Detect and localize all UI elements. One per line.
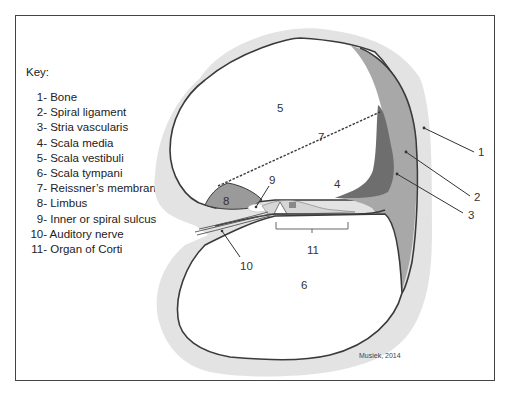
label-9: 9: [269, 174, 275, 186]
label-5: 5: [277, 102, 283, 114]
credit-text: Musiek, 2014: [359, 352, 401, 359]
cochlea-cross-section: 1 2 3 4 5 6 7 8 9 10 11 Musiek, 2014: [0, 0, 507, 395]
label-2: 2: [474, 191, 480, 203]
pointer-9-dot: [255, 206, 258, 209]
pointer-10-dot: [221, 230, 224, 233]
label-3: 3: [468, 209, 474, 221]
label-1: 1: [478, 146, 484, 158]
label-10: 10: [240, 260, 253, 272]
hair-cells: [289, 202, 296, 208]
label-7: 7: [318, 131, 324, 143]
pointer-1-dot: [423, 127, 426, 130]
label-6: 6: [301, 279, 307, 291]
label-11: 11: [307, 244, 319, 256]
pointer-2-dot: [405, 151, 408, 154]
pointer-1: [424, 128, 474, 152]
label-8: 8: [223, 195, 229, 207]
label-4: 4: [334, 178, 341, 190]
pointer-3-dot: [396, 173, 399, 176]
